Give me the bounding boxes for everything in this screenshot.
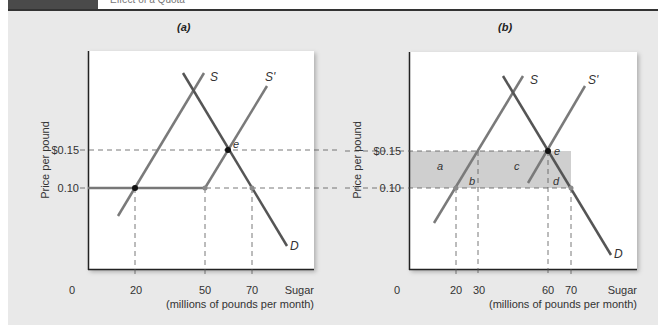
ytick-015-a: $0.15 <box>51 144 79 156</box>
panel-a: S S' D e $0.15 0.10 Price per pound 0 20… <box>39 51 340 310</box>
xtick-20-a: 20 <box>130 284 142 296</box>
plot-area-a <box>88 51 314 270</box>
area-b-label: b <box>469 175 475 187</box>
label-s-b: S <box>530 73 538 87</box>
label-s-prime-b: S' <box>588 73 599 87</box>
label-d-b: D <box>614 247 623 261</box>
label-s-prime-a: S' <box>265 70 276 84</box>
xtick-70-a: 70 <box>246 284 258 296</box>
x-axis-unit-a: Sugar <box>285 284 315 296</box>
xtick-0-b: 0 <box>394 284 400 296</box>
point-e-a <box>225 147 231 153</box>
x-axis-label-b: (millions of pounds per month) <box>489 298 637 310</box>
area-c-label: c <box>514 160 520 172</box>
ytick-015-b: $0.15 <box>373 145 401 157</box>
point-q20-a <box>132 185 138 191</box>
area-a-label: a <box>437 160 443 172</box>
point-e-b <box>545 148 551 154</box>
xtick-30-b: 30 <box>473 284 485 296</box>
label-d-a: D <box>290 239 299 253</box>
label-s-a: S <box>210 70 218 84</box>
xtick-70-b: 70 <box>565 284 577 296</box>
point-q70-b <box>569 186 574 191</box>
y-axis-label-a: Price per pound <box>39 121 51 199</box>
label-e-a: e <box>233 138 239 150</box>
y-axis-label-b: Price per pound <box>351 121 363 199</box>
point-q20-b <box>454 186 459 191</box>
figure-svg: S S' D e $0.15 0.10 Price per pound 0 20… <box>0 0 666 333</box>
xtick-60-b: 60 <box>542 284 554 296</box>
xtick-0-a: 0 <box>69 284 75 296</box>
x-axis-label-a: (millions of pounds per month) <box>166 298 314 310</box>
xtick-20-b: 20 <box>450 284 462 296</box>
x-axis-unit-b: Sugar <box>608 284 638 296</box>
point-q50-a <box>203 186 208 191</box>
area-d-label: d <box>553 175 560 187</box>
panel-b: S S' D e a b c d $0.15 0.10 Price per po… <box>345 52 637 310</box>
ytick-010-a: 0.10 <box>58 182 79 194</box>
ytick-010-b: 0.10 <box>380 182 401 194</box>
point-q70-a <box>250 186 255 191</box>
xtick-50-a: 50 <box>199 284 211 296</box>
label-e-b: e <box>554 145 560 157</box>
shaded-region-b <box>409 151 571 188</box>
